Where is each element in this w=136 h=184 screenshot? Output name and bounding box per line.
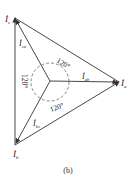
side-c-to-a [15,18,119,82]
angle-label-top: 120° [55,56,72,71]
angle-circle [31,63,69,101]
side-b-to-a [15,82,119,145]
angle-label-bottom: 120° [49,101,65,114]
label-ic: İc [4,14,11,25]
label-iab: İab [81,72,90,82]
figure-caption: (b) [0,166,136,175]
side-a-to-b [15,40,60,145]
label-ib: İb [12,149,19,160]
label-ica: İca [18,39,27,49]
label-ibc: İbc [32,119,40,129]
phasor-diagram: İc İa İb İca İab İbc 120° 120° 120° [0,0,136,184]
angle-label-left: 120° [20,74,29,88]
phasor-ab [50,81,117,82]
label-ia: İa [120,78,127,89]
